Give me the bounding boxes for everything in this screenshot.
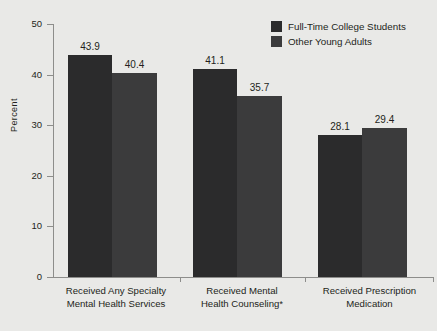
- bar-value-g0-s1: 40.4: [112, 59, 157, 70]
- x-axis-line: [53, 277, 434, 278]
- bar-value-g0-s0: 43.9: [68, 41, 112, 52]
- y-tick-label-20: 20: [8, 170, 42, 181]
- plot-area: 43.9 40.4 41.1 35.7 28.1 29.4: [53, 24, 434, 277]
- legend-swatch-icon-series-1: [271, 36, 282, 47]
- bar-g2-s0: [318, 135, 362, 277]
- legend-swatch-icon-series-0: [271, 21, 282, 32]
- category-separator-3: [433, 277, 434, 282]
- category-separator-2: [305, 277, 306, 282]
- y-axis-title: Percent: [9, 98, 19, 132]
- category-label-1-line1: Received Mental: [181, 285, 303, 298]
- bar-value-g2-s1: 29.4: [362, 114, 407, 125]
- category-separator-1: [180, 277, 181, 282]
- y-tick-label-50: 50: [8, 18, 42, 29]
- legend-label-series-0: Full-Time College Students: [288, 21, 406, 32]
- category-label-2-line1: Received Prescription: [307, 285, 432, 298]
- y-tick-label-10: 10: [8, 220, 42, 231]
- legend-item-full-time-college-students: Full-Time College Students: [271, 21, 406, 32]
- legend-label-series-1: Other Young Adults: [288, 36, 372, 47]
- category-label-0-line2: Mental Health Services: [55, 298, 177, 311]
- bar-g0-s0: [68, 55, 112, 277]
- legend-item-other-young-adults: Other Young Adults: [271, 36, 406, 47]
- bar-chart: 50 40 30 20 10 0 Percent 43.9 40.4 41.1 …: [0, 0, 437, 331]
- category-label-2-line2: Medication: [307, 298, 432, 311]
- bar-g1-s0: [193, 69, 237, 277]
- category-label-1-line2: Health Counseling*: [181, 298, 303, 311]
- bar-g2-s1: [362, 128, 407, 277]
- bar-g1-s1: [237, 96, 282, 277]
- y-tick-0: [47, 277, 53, 278]
- category-label-0: Received Any Specialty Mental Health Ser…: [55, 285, 177, 310]
- bar-value-g2-s0: 28.1: [318, 121, 362, 132]
- legend: Full-Time College Students Other Young A…: [271, 21, 406, 51]
- bar-g0-s1: [112, 73, 157, 278]
- category-label-2: Received Prescription Medication: [307, 285, 432, 310]
- y-tick-label-0: 0: [8, 271, 42, 282]
- category-label-0-line1: Received Any Specialty: [55, 285, 177, 298]
- bar-value-g1-s1: 35.7: [237, 82, 282, 93]
- bar-value-g1-s0: 41.1: [193, 55, 237, 66]
- y-tick-label-40: 40: [8, 69, 42, 80]
- category-label-1: Received Mental Health Counseling*: [181, 285, 303, 310]
